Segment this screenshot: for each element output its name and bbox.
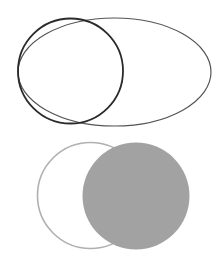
shapes-svg (0, 0, 218, 267)
dark-circle (18, 19, 123, 124)
top-shape-group (18, 18, 211, 126)
large-ellipse (18, 18, 211, 126)
filled-gray-circle (83, 143, 190, 250)
diagram-canvas (0, 0, 218, 267)
bottom-shape-group (38, 143, 190, 250)
